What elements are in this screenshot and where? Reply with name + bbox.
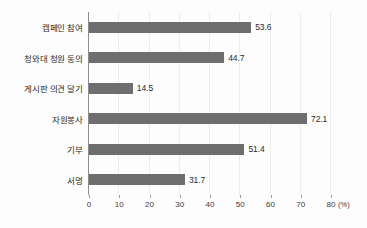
x-tick-mark (271, 195, 272, 198)
bar-row: 게시판 의견 달기14.5 (0, 73, 367, 104)
x-tick-label: 10 (115, 200, 124, 209)
bar-rows: 캠페인 참여53.6청와대 청원 동의44.7게시판 의견 달기14.5자원봉사… (0, 12, 367, 195)
bar-value-label: 72.1 (311, 114, 327, 124)
bar-value-label: 53.6 (255, 22, 271, 32)
category-label: 청와대 청원 동의 (0, 52, 83, 64)
bar[interactable] (89, 113, 307, 124)
x-tick-label: 70 (296, 200, 305, 209)
bar-row: 청와대 청원 동의44.7 (0, 43, 367, 74)
x-tick-label: 60 (266, 200, 275, 209)
category-label: 서명 (0, 174, 83, 186)
category-label: 자원봉사 (0, 113, 83, 125)
category-label: 기부 (0, 143, 83, 155)
category-label: 게시판 의견 달기 (0, 82, 83, 94)
x-tick-mark (210, 195, 211, 198)
x-tick-label: 40 (206, 200, 215, 209)
x-axis-unit: (%) (338, 200, 350, 209)
x-tick-mark (89, 195, 90, 198)
x-tick-mark (240, 195, 241, 198)
x-tick-label: 80 (327, 200, 336, 209)
x-tick-label: 30 (175, 200, 184, 209)
x-tick-mark (119, 195, 120, 198)
bar-value-label: 51.4 (248, 144, 264, 154)
bar-row: 서명31.7 (0, 165, 367, 196)
bar-value-label: 31.7 (189, 175, 205, 185)
category-label: 캠페인 참여 (0, 21, 83, 33)
bar-value-label: 44.7 (228, 53, 244, 63)
bar[interactable] (89, 52, 224, 63)
x-tick-mark (301, 195, 302, 198)
bar-chart: 캠페인 참여53.6청와대 청원 동의44.7게시판 의견 달기14.5자원봉사… (0, 0, 367, 228)
bar-value-label: 14.5 (137, 83, 153, 93)
x-tick-mark (331, 195, 332, 198)
bar-row: 자원봉사72.1 (0, 104, 367, 135)
x-tick-label: 50 (236, 200, 245, 209)
x-axis-unit-wrap: (%) (338, 200, 350, 209)
bar[interactable] (89, 174, 185, 185)
bar[interactable] (89, 83, 133, 94)
bar-row: 캠페인 참여53.6 (0, 12, 367, 43)
x-axis: 01020304050607080(%) (0, 195, 367, 228)
x-tick-label: 20 (145, 200, 154, 209)
bar-row: 기부51.4 (0, 134, 367, 165)
bar[interactable] (89, 22, 251, 33)
x-tick-mark (180, 195, 181, 198)
x-tick-label: 0 (87, 200, 91, 209)
x-tick-mark (150, 195, 151, 198)
bar[interactable] (89, 144, 244, 155)
